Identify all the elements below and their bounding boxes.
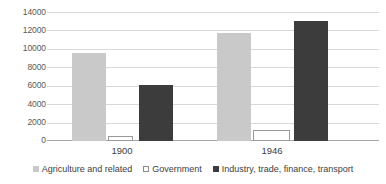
bar-1900-industry [139, 85, 173, 142]
x-axis-tick-label-1946: 1946 [261, 146, 282, 156]
legend-swatch-icon-agriculture [33, 166, 39, 172]
legend: Agriculture and related Government Indus… [0, 164, 386, 174]
legend-item-government[interactable]: Government [143, 164, 202, 174]
legend-label-industry: Industry, trade, finance, transport [222, 164, 353, 174]
bar-chart: 14000 12000 10000 8000 6000 4000 2000 0 … [0, 0, 386, 184]
y-axis-tick-label: 12000 [2, 26, 46, 35]
legend-item-industry[interactable]: Industry, trade, finance, transport [213, 164, 353, 174]
legend-label-government: Government [152, 164, 202, 174]
bar-1946-industry [294, 21, 328, 141]
y-axis-tick-label: 0 [2, 136, 46, 145]
bar-1900-agriculture [72, 53, 106, 141]
bar-1946-government [253, 130, 290, 141]
y-axis-tick-label: 6000 [2, 81, 46, 90]
bar-1900-government [108, 136, 133, 141]
legend-item-agriculture[interactable]: Agriculture and related [33, 164, 133, 174]
y-axis-tick-label: 10000 [2, 44, 46, 53]
legend-label-agriculture: Agriculture and related [42, 164, 133, 174]
legend-swatch-icon-industry [213, 166, 219, 172]
bar-1946-agriculture [217, 33, 251, 141]
bars-layer [47, 12, 379, 141]
y-axis-tick-label: 8000 [2, 63, 46, 72]
y-axis-tick-label: 4000 [2, 100, 46, 109]
legend-swatch-icon-government [143, 166, 149, 172]
x-axis-tick-label-1900: 1900 [111, 146, 132, 156]
y-axis-tick-label: 14000 [2, 8, 46, 17]
y-axis-tick-label: 2000 [2, 118, 46, 127]
plot-area [47, 12, 379, 141]
